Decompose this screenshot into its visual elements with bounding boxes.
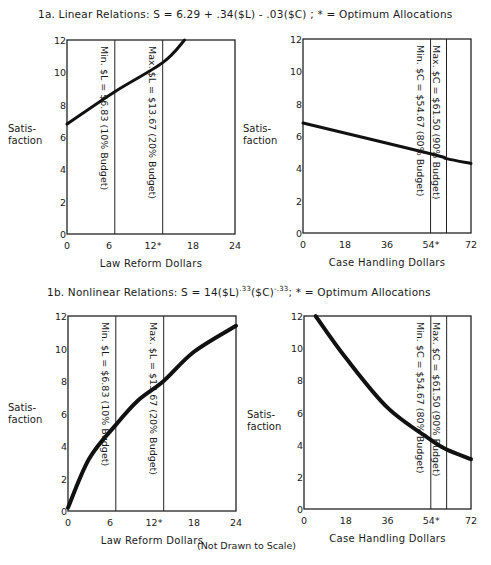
satisfaction-curve — [67, 40, 185, 124]
y-tick-label: 12 — [290, 34, 302, 45]
y-tick-label: 10 — [290, 66, 302, 77]
chart-1b-case-handling: 0246810120183654*72Case Handling Dollars… — [291, 311, 477, 544]
reference-line-label: Max. $C = $61.50 (90% Budget) — [431, 322, 442, 476]
plot-frame — [303, 39, 471, 233]
charts-canvas: 0246810120612*1824Law Reform DollarsMin.… — [0, 0, 491, 565]
x-tick-label: 72 — [465, 515, 477, 526]
plot-frame — [304, 316, 471, 509]
x-tick-label: 54* — [423, 515, 440, 526]
reference-line-label: Min. $C = $54.67 (80% Budget) — [415, 322, 426, 474]
x-tick-label: 12* — [146, 517, 163, 528]
x-tick-label: 0 — [300, 239, 306, 250]
y-tick-label: 0 — [296, 228, 302, 239]
x-tick-label: 54* — [423, 239, 440, 250]
y-tick-label: 8 — [61, 376, 67, 387]
x-tick-label: 18 — [187, 240, 199, 251]
x-tick-label: 18 — [340, 515, 352, 526]
x-tick-label: 36 — [381, 515, 393, 526]
x-tick-label: 0 — [65, 517, 71, 528]
y-tick-label: 12 — [54, 35, 66, 46]
x-axis-label: Law Reform Dollars — [100, 258, 202, 269]
reference-line-label: Max. $L = $13.67 (20% Budget) — [148, 322, 159, 475]
y-tick-label: 6 — [296, 131, 302, 142]
x-tick-label: 18 — [339, 239, 351, 250]
x-tick-label: 0 — [301, 515, 307, 526]
y-tick-label: 8 — [60, 100, 66, 111]
y-tick-label: 4 — [60, 164, 66, 175]
y-tick-label: 8 — [297, 375, 303, 386]
x-tick-label: 72 — [465, 239, 477, 250]
y-tick-label: 2 — [61, 474, 67, 485]
y-tick-label: 6 — [297, 408, 303, 419]
x-tick-label: 18 — [188, 517, 200, 528]
chart-1a-law-reform: 0246810120612*1824Law Reform DollarsMin.… — [54, 35, 241, 269]
x-tick-label: 6 — [106, 240, 112, 251]
y-tick-label: 2 — [297, 472, 303, 483]
x-tick-label: 12* — [145, 240, 162, 251]
y-tick-label: 12 — [291, 311, 303, 322]
x-tick-label: 36 — [381, 239, 393, 250]
y-tick-label: 6 — [60, 132, 66, 143]
y-tick-label: 0 — [60, 229, 66, 240]
satisfaction-curve — [316, 316, 471, 459]
x-tick-label: 0 — [64, 240, 70, 251]
x-tick-label: 6 — [107, 517, 113, 528]
x-axis-label: Case Handling Dollars — [329, 257, 446, 268]
x-tick-label: 24 — [229, 240, 241, 251]
reference-line-label: Min. $C = $54.67 (80% Budget) — [415, 45, 426, 197]
y-tick-label: 2 — [60, 197, 66, 208]
y-tick-label: 8 — [296, 99, 302, 110]
y-tick-label: 10 — [55, 344, 67, 355]
y-tick-label: 12 — [55, 311, 67, 322]
x-axis-label: Case Handling Dollars — [329, 533, 446, 544]
x-axis-label: Law Reform Dollars — [101, 535, 203, 546]
reference-line-label: Min. $L = $6.83 (10% Budget) — [99, 46, 110, 190]
y-tick-label: 4 — [296, 163, 302, 174]
y-tick-label: 6 — [61, 409, 67, 420]
y-tick-label: 0 — [297, 504, 303, 515]
chart-1b-law-reform: 0246810120612*1824Law Reform DollarsMin.… — [55, 311, 242, 546]
y-tick-label: 10 — [291, 343, 303, 354]
y-tick-label: 10 — [54, 67, 66, 78]
y-tick-label: 2 — [296, 196, 302, 207]
y-tick-label: 4 — [61, 441, 67, 452]
satisfaction-curve — [303, 123, 471, 163]
y-tick-label: 4 — [297, 440, 303, 451]
x-tick-label: 24 — [230, 517, 242, 528]
chart-1a-case-handling: 0246810120183654*72Case Handling Dollars… — [290, 34, 477, 268]
reference-line-label: Max. $C = $61.50 (90% Budget) — [431, 45, 442, 199]
